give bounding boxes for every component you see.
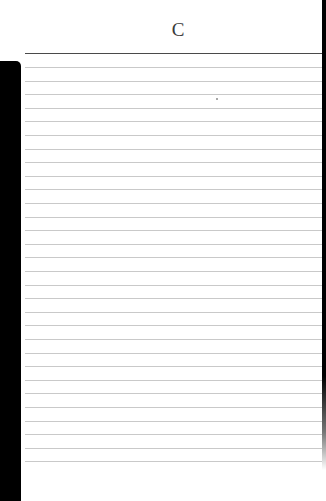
notebook-page: C — [0, 0, 326, 501]
ruled-line — [25, 162, 322, 163]
ruled-line — [25, 189, 322, 190]
ruled-line — [25, 108, 322, 109]
ruled-line — [25, 298, 322, 299]
ruled-line — [25, 434, 322, 435]
ruled-line — [25, 353, 322, 354]
ruled-line — [25, 312, 322, 313]
ruled-line — [25, 176, 322, 177]
ruled-line — [25, 217, 322, 218]
ruled-line — [25, 393, 322, 394]
ruled-line — [25, 407, 322, 408]
ruled-line — [25, 257, 322, 258]
ruled-line — [25, 380, 322, 381]
ruled-line — [25, 448, 322, 449]
ruled-line — [25, 271, 322, 272]
ruled-line — [25, 203, 322, 204]
ruled-line — [25, 325, 322, 326]
left-binding-edge — [0, 61, 21, 501]
ruled-line — [25, 421, 322, 422]
ruled-line — [25, 366, 322, 367]
ruled-line — [25, 339, 322, 340]
ruled-line — [25, 94, 322, 95]
ruled-line — [25, 230, 322, 231]
paper-speck — [216, 98, 218, 100]
ruled-line — [25, 285, 322, 286]
ruled-line — [25, 461, 322, 462]
ruled-line — [25, 135, 322, 136]
ruled-line — [25, 67, 322, 68]
ruled-line — [25, 244, 322, 245]
ruled-line — [25, 121, 322, 122]
ruled-line — [25, 149, 322, 150]
ruled-line — [25, 81, 322, 82]
header-rule — [25, 53, 322, 54]
page-header-letter: C — [0, 19, 326, 41]
right-page-edge — [322, 0, 326, 470]
